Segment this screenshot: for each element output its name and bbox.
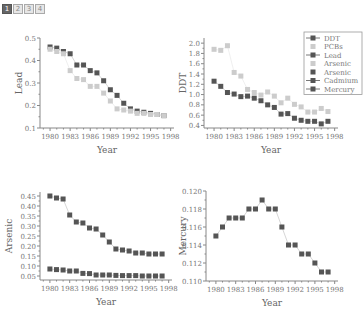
tab-4[interactable]: 4	[35, 4, 45, 14]
data-point	[153, 274, 158, 279]
tab-1[interactable]: 1	[2, 4, 12, 14]
axes	[203, 191, 338, 284]
x-axis-title: Year	[260, 145, 282, 155]
x-axis-title: Year	[261, 298, 283, 308]
x-tick-label: 1980	[207, 286, 225, 294]
data-point	[54, 49, 59, 54]
data-point	[292, 102, 297, 107]
x-tick-label: 1989	[266, 286, 284, 294]
x-tick-label: 1992	[286, 286, 304, 294]
data-point	[47, 194, 52, 199]
x-tick-label: 1989	[101, 133, 119, 141]
y-tick-label: 0.45	[20, 193, 36, 201]
data-point	[155, 112, 160, 117]
data-point	[101, 91, 106, 96]
data-point	[61, 197, 66, 202]
data-point	[67, 269, 72, 274]
data-point	[305, 110, 310, 115]
data-point	[47, 267, 52, 272]
x-tick-label: 1998	[326, 286, 344, 294]
data-point	[140, 274, 145, 279]
data-point	[160, 274, 165, 279]
x-tick-label: 1983	[61, 133, 79, 141]
data-point	[94, 227, 99, 232]
data-point	[225, 43, 230, 48]
y-tick-label: 0.5	[25, 35, 36, 43]
x-tick-label: 1983	[225, 133, 243, 141]
legend-entry: DDT	[324, 35, 340, 43]
data-point	[293, 243, 298, 248]
data-point	[74, 269, 79, 274]
x-tick-label: 1992	[122, 133, 140, 141]
data-point	[88, 84, 93, 89]
data-point	[61, 268, 66, 273]
tab-2[interactable]: 2	[13, 4, 23, 14]
data-point	[48, 47, 53, 52]
tab-3[interactable]: 3	[24, 4, 34, 14]
data-point	[67, 213, 72, 218]
data-point	[312, 110, 317, 115]
y-tick-label: 0.8	[189, 101, 200, 109]
data-point	[135, 111, 140, 116]
data-point	[133, 251, 138, 256]
data-point	[258, 98, 263, 103]
x-tick-label: 1980	[41, 133, 59, 141]
data-point	[146, 252, 151, 257]
data-point	[81, 63, 86, 68]
y-axis-title: Lead	[14, 72, 24, 95]
data-point	[227, 216, 232, 221]
x-tick-label: 1998	[160, 285, 178, 293]
data-point	[128, 109, 133, 114]
data-point	[81, 77, 86, 82]
data-point	[120, 273, 125, 278]
data-point	[220, 225, 225, 230]
data-point	[94, 70, 99, 75]
data-series	[47, 194, 164, 257]
x-tick-label: 1992	[286, 133, 304, 141]
y-tick-label: 1.0	[189, 91, 200, 99]
data-point	[160, 252, 165, 257]
y-tick-label: 0.118	[182, 206, 202, 214]
data-point	[285, 96, 290, 101]
x-tick-label: 1998	[162, 133, 180, 141]
legend-entry: Mercury	[324, 86, 354, 94]
data-point	[233, 216, 238, 221]
y-tick-label: 0.05	[20, 273, 36, 281]
data-point	[74, 63, 79, 68]
y-tick-label: 1.6	[189, 60, 201, 68]
data-point	[232, 70, 237, 75]
data-point	[101, 78, 106, 83]
data-point	[74, 220, 79, 225]
data-point	[312, 261, 317, 266]
legend-entry: Cadmium	[324, 77, 358, 85]
y-tick-label: 0.4	[25, 57, 37, 65]
data-point	[299, 104, 304, 109]
x-tick-label: 1998	[326, 133, 344, 141]
data-point	[260, 198, 265, 203]
data-point	[225, 90, 230, 95]
data-series	[48, 47, 167, 118]
data-point	[141, 111, 146, 116]
y-tick-label: 0.15	[20, 253, 36, 261]
data-point	[161, 113, 166, 118]
data-point	[121, 108, 126, 113]
data-point	[100, 233, 105, 238]
data-point	[312, 119, 317, 124]
x-tick-label: 1983	[61, 285, 79, 293]
data-point	[286, 243, 291, 248]
data-point	[74, 76, 79, 81]
x-tick-label: 1992	[120, 285, 138, 293]
data-point	[87, 226, 92, 231]
data-point	[61, 51, 66, 56]
data-point	[68, 68, 73, 73]
y-tick-label: 0.2	[25, 102, 36, 110]
legend: DDTPCBsLeadArsenicArsenicCadmiumMercury	[304, 32, 362, 95]
y-tick-label: 1.2	[189, 81, 200, 89]
data-point	[240, 216, 245, 221]
data-point	[212, 47, 217, 52]
data-point	[246, 207, 251, 212]
x-tick-label: 1986	[247, 286, 265, 294]
legend-entry: Arsenic	[323, 60, 351, 68]
y-tick-label: 0.112	[182, 260, 202, 268]
data-series	[47, 267, 164, 279]
